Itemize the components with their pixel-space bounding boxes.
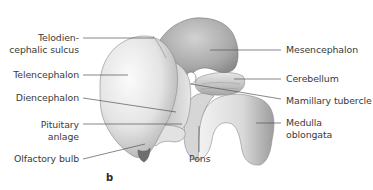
panel-label: b bbox=[106, 172, 113, 183]
label-diencephalon: Diencephalon bbox=[16, 92, 79, 104]
label-telodiencephalic-sulcus: Telodien- cephalic sulcus bbox=[9, 32, 79, 55]
label-pons: Pons bbox=[189, 153, 210, 165]
label-medulla-oblongata: Medulla oblongata bbox=[286, 117, 332, 140]
label-pituitary-anlage: Pituitary anlage bbox=[41, 119, 79, 142]
label-telencephalon: Telencephalon bbox=[13, 69, 79, 81]
label-cerebellum: Cerebellum bbox=[286, 73, 339, 85]
brain-diagram: Telodien- cephalic sulcus Telencephalon … bbox=[0, 0, 373, 190]
label-mamillary-tubercle: Mamillary tubercle bbox=[286, 95, 372, 107]
label-olfactory-bulb: Olfactory bulb bbox=[14, 153, 79, 165]
label-mesencephalon: Mesencephalon bbox=[286, 44, 358, 56]
